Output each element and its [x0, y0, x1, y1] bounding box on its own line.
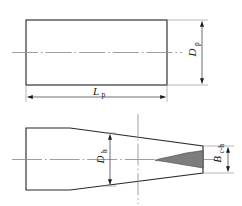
technical-drawing-svg: D p L p	[0, 0, 242, 206]
bch-subscript: c-h	[217, 144, 226, 154]
top-view-group: D p L p	[12, 20, 208, 102]
lp-subscript: p	[102, 90, 106, 99]
dh-subscript: h	[100, 149, 109, 153]
dh-dimension-label: D h	[94, 149, 109, 164]
drawing-canvas: D p L p	[0, 0, 242, 206]
shaded-taper-wedge	[155, 151, 203, 169]
dp-dimension-label: D p	[186, 42, 201, 57]
dh-symbol: D	[94, 155, 106, 164]
dp-symbol: D	[186, 48, 198, 57]
bch-symbol: B	[211, 156, 223, 163]
bch-dimension-label: B c-h	[211, 144, 226, 163]
dp-subscript: p	[192, 42, 201, 46]
lp-symbol: L	[92, 85, 99, 97]
bottom-view-group: D h B c-h	[12, 114, 234, 204]
